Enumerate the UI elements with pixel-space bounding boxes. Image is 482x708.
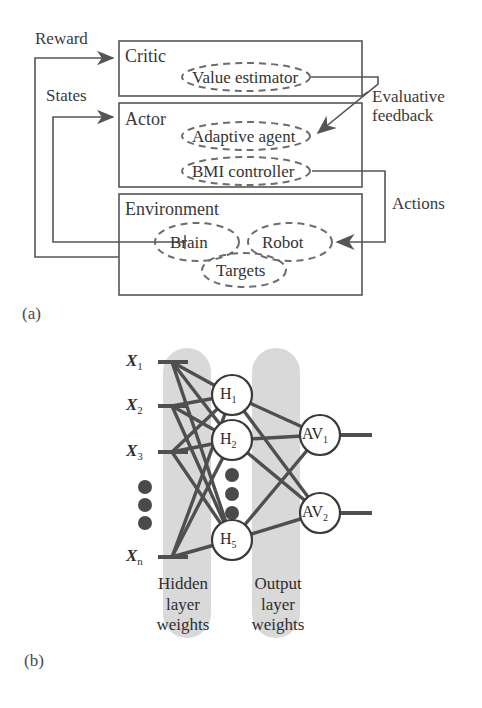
output-weights-line3: weights [232,615,324,636]
node-label-av1: AV1 [302,426,328,445]
node-label-h5: H5 [220,531,237,550]
node-h2-name: H [220,430,232,447]
input-ellipsis-dots [138,480,152,530]
node-av2-name: AV [302,503,323,520]
node-av2-sub: 2 [323,512,328,523]
input-x2-sub: 2 [137,404,143,416]
input-x1-name: X [126,351,137,370]
input-xn-name: X [126,546,137,565]
output-weights-line2: layer [232,595,324,616]
node-h5-sub: 5 [232,539,237,550]
input-xn-sub: n [137,555,143,567]
node-h5-name: H [220,530,232,547]
output-weights-line1: Output [232,574,324,595]
hidden-weights-line1: Hidden [137,574,229,595]
node-h1-name: H [220,385,232,402]
input-label-x1: X1 [126,352,143,372]
node-h2-sub: 2 [232,439,237,450]
figure-container: Reward States Critic Actor Environment V… [0,0,482,708]
hidden-weights-line2: layer [137,595,229,616]
output-layer-weights-label: Output layer weights [232,574,324,636]
hidden-ellipsis-dots [225,468,239,520]
node-label-av2: AV2 [302,504,328,523]
input-x3-sub: 3 [137,450,143,462]
node-label-h2: H2 [220,431,237,450]
hidden-layer-weights-label: Hidden layer weights [137,574,229,636]
input-label-xn: Xn [126,547,143,567]
input-label-x2: X2 [126,396,143,416]
hidden-weights-line3: weights [137,615,229,636]
panel-b-letter: (b) [24,652,44,669]
input-x2-name: X [126,395,137,414]
node-av1-name: AV [302,425,323,442]
node-h1-sub: 1 [232,394,237,405]
input-x1-sub: 1 [137,360,143,372]
input-label-x3: X3 [126,442,143,462]
input-x3-name: X [126,441,137,460]
node-label-h1: H1 [220,386,237,405]
node-av1-sub: 1 [323,434,328,445]
